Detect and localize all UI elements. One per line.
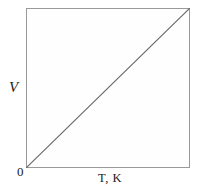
plot-frame — [26, 8, 190, 168]
y-axis-label: V — [9, 80, 18, 95]
chart-figure: V 0 T, K — [0, 0, 204, 194]
x-axis-label: T, K — [98, 172, 122, 185]
origin-label: 0 — [17, 165, 24, 178]
